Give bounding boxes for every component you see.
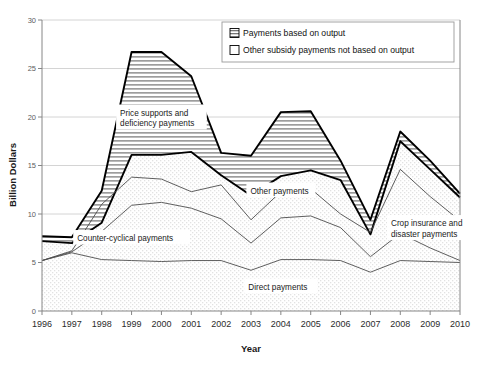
y-tick-label: 20 bbox=[28, 113, 36, 122]
x-tick-label: 2007 bbox=[360, 319, 380, 329]
stacked-bands bbox=[42, 52, 460, 311]
annotation-counter-cyclical: Counter-cyclical payments bbox=[77, 234, 173, 243]
y-tick-label: 0 bbox=[32, 307, 36, 316]
figure-caption bbox=[6, 358, 476, 370]
x-tick-label: 2006 bbox=[331, 319, 351, 329]
annotation-price-supports: deficiency payments bbox=[120, 119, 194, 128]
y-tick-label: 5 bbox=[32, 258, 36, 267]
legend-label-1: Other subsidy payments not based on outp… bbox=[243, 45, 415, 55]
y-tick-label: 25 bbox=[28, 64, 36, 73]
x-tick-label: 1999 bbox=[122, 319, 142, 329]
x-tick-label: 1996 bbox=[32, 319, 52, 329]
annotation-direct-payments: Direct payments bbox=[248, 283, 307, 292]
x-tick-label: 2010 bbox=[450, 319, 470, 329]
x-tick-label: 1997 bbox=[62, 319, 82, 329]
y-axis-ticks: 051015202530 bbox=[28, 16, 42, 316]
y-tick-label: 10 bbox=[28, 210, 36, 219]
chart-figure: 051015202530 199619971998199920002001200… bbox=[0, 0, 488, 370]
x-axis-title: Year bbox=[241, 343, 261, 354]
annotation-crop-insurance: Crop insurance and bbox=[391, 219, 463, 228]
x-tick-label: 2003 bbox=[241, 319, 261, 329]
chart-legend: Payments based on outputOther subsidy pa… bbox=[222, 22, 454, 62]
x-axis-ticks: 1996199719981999200020012002200320042005… bbox=[32, 311, 470, 329]
annotation-crop-insurance: disaster payments bbox=[391, 230, 457, 239]
x-tick-label: 2000 bbox=[151, 319, 171, 329]
y-tick-label: 30 bbox=[28, 16, 36, 25]
area-chart-canvas: 051015202530 199619971998199920002001200… bbox=[0, 0, 488, 370]
annotation-price-supports: Price supports and bbox=[120, 109, 189, 118]
y-axis-title: Billion Dollars bbox=[7, 143, 18, 207]
x-tick-label: 2004 bbox=[271, 319, 291, 329]
annotation-other-payments: Other payments bbox=[250, 187, 308, 196]
x-tick-label: 2005 bbox=[301, 319, 321, 329]
x-tick-label: 2002 bbox=[211, 319, 231, 329]
x-tick-label: 2001 bbox=[181, 319, 201, 329]
x-tick-label: 1998 bbox=[92, 319, 112, 329]
x-tick-label: 2009 bbox=[420, 319, 440, 329]
legend-label-0: Payments based on output bbox=[243, 28, 346, 38]
y-tick-label: 15 bbox=[28, 161, 36, 170]
legend-swatch-0 bbox=[230, 29, 239, 38]
legend-swatch-1 bbox=[230, 46, 239, 55]
x-tick-label: 2008 bbox=[390, 319, 410, 329]
